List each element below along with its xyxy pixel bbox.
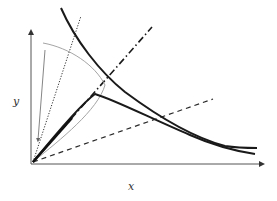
thin-arrow-line	[38, 50, 45, 140]
upper-thick-curve	[61, 8, 257, 148]
dotted-line	[33, 16, 81, 162]
y-axis-label: y	[12, 95, 20, 108]
diagram-canvas: y x	[0, 0, 277, 201]
lower-thick-curve	[33, 94, 255, 162]
x-axis-label: x	[128, 180, 135, 193]
